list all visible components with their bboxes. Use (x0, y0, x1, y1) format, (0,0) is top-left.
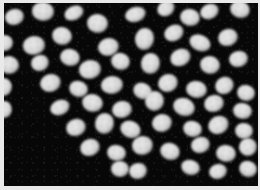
nucleus (187, 31, 214, 55)
nucleus (93, 111, 115, 134)
nucleus (22, 34, 46, 56)
nucleus (228, 3, 253, 20)
nucleus (50, 24, 75, 47)
nucleus (4, 78, 12, 96)
nucleus (128, 162, 149, 181)
nucleus (236, 135, 258, 158)
nucleus (197, 3, 220, 22)
nucleus (207, 162, 228, 181)
nucleus (237, 158, 258, 180)
nucleus (58, 46, 82, 68)
nucleus (167, 45, 193, 69)
nucleus (189, 135, 212, 156)
nucleus (205, 113, 232, 138)
nucleus (235, 83, 257, 103)
microscope-field (4, 3, 258, 186)
nucleus (212, 73, 237, 97)
nucleus (4, 54, 21, 76)
nucleus (111, 99, 134, 119)
nucleus (231, 101, 253, 121)
nucleus (78, 136, 103, 159)
nucleus (4, 101, 12, 118)
nucleus (170, 95, 197, 120)
nucleus (216, 26, 240, 48)
nucleus (227, 49, 249, 69)
nucleus (4, 35, 13, 51)
nucleus (123, 4, 147, 24)
micrograph-figure (0, 0, 260, 190)
nucleus (202, 92, 226, 114)
nucleus (78, 58, 103, 81)
nucleus (184, 79, 208, 99)
nucleus (29, 52, 51, 73)
nucleus (198, 54, 222, 76)
nucleus (62, 3, 86, 23)
nucleus (144, 90, 165, 112)
nucleus (85, 12, 109, 34)
nucleus (178, 6, 202, 27)
nucleus (158, 139, 183, 162)
nucleus (154, 3, 177, 19)
nucleus (37, 71, 62, 94)
nucleus (4, 7, 25, 27)
nucleus (100, 75, 124, 95)
nucleus (150, 112, 173, 134)
nucleus (110, 160, 130, 178)
nucleus (214, 143, 237, 164)
nucleus (139, 52, 160, 75)
nucleus (179, 157, 202, 177)
nucleus (64, 116, 88, 138)
nucleus (31, 3, 55, 22)
nucleus (162, 21, 187, 44)
nucleus (105, 143, 127, 163)
nucleus (133, 27, 155, 51)
nucleus (48, 96, 72, 117)
